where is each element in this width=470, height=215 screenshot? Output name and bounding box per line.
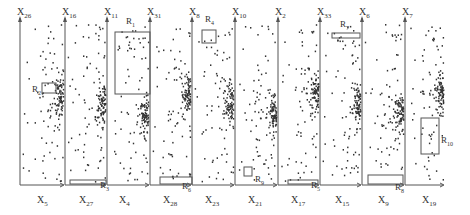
top-axis-label: X26: [17, 6, 31, 20]
region-label: R3: [100, 180, 109, 192]
region-box: [115, 32, 150, 94]
bottom-axis-label: X27: [79, 194, 93, 208]
bottom-axis-label: X9: [378, 194, 389, 208]
region-label: R7: [340, 19, 349, 31]
bottom-axis-label: X15: [335, 194, 349, 208]
region-box: [332, 33, 360, 38]
regions-layer: [42, 30, 439, 184]
region-label: R6: [182, 181, 191, 193]
bottom-axis-label: X5: [37, 194, 48, 208]
region-label: R4: [205, 14, 214, 26]
top-axis-label: X7: [402, 6, 413, 20]
top-axis-label: X10: [232, 6, 246, 20]
bottom-axis-label: X19: [422, 194, 436, 208]
region-label: R10: [441, 135, 453, 147]
region-label: R5: [311, 180, 320, 192]
axes-layer: [18, 16, 444, 187]
bottom-axis-label: X17: [291, 194, 305, 208]
region-label: R9: [255, 174, 264, 186]
top-axis-label: X31: [147, 6, 161, 20]
region-box: [42, 83, 56, 93]
bottom-axis-label: X4: [119, 194, 130, 208]
top-axis-label: X16: [62, 6, 76, 20]
bottom-axis-label: X21: [248, 194, 262, 208]
scatter-points-layer: [23, 24, 445, 183]
region-box: [244, 167, 252, 176]
bottom-axis-label: X23: [205, 194, 219, 208]
region-label: R1: [126, 16, 135, 28]
top-axis-label: X6: [359, 6, 370, 20]
region-label: R2: [32, 84, 41, 96]
top-axis-label: X11: [104, 6, 118, 20]
top-axis-label: X2: [275, 6, 286, 20]
region-label: R8: [395, 182, 404, 194]
bottom-axis-label: X28: [163, 194, 177, 208]
top-axis-label: X33: [317, 6, 331, 20]
top-axis-label: X8: [189, 6, 200, 20]
